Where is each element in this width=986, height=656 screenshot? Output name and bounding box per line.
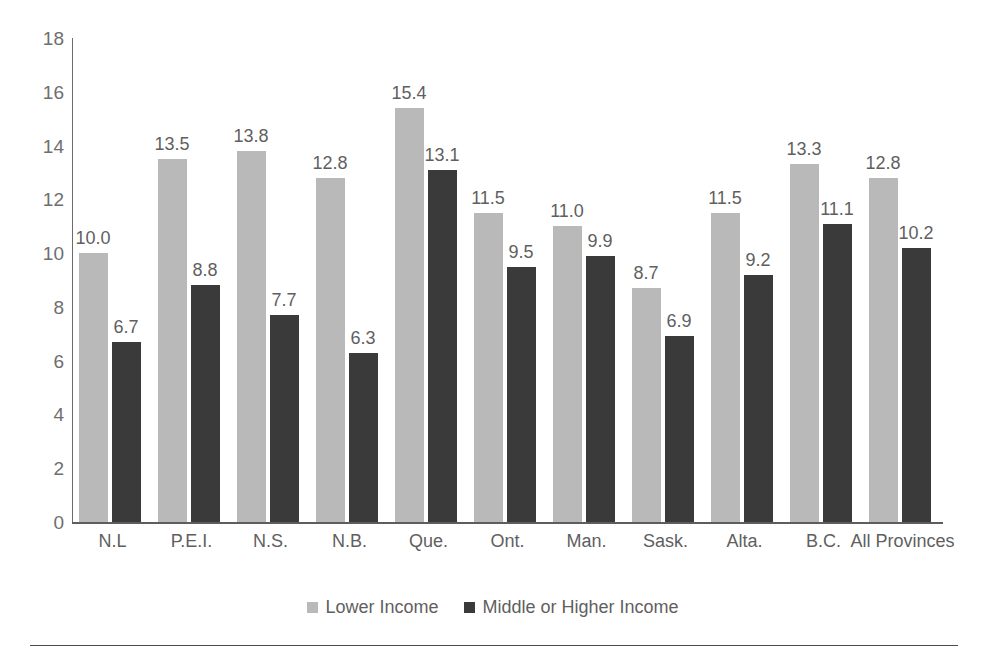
bar-group: 8.76.9 bbox=[626, 38, 705, 522]
bar-lower-income[interactable] bbox=[79, 253, 108, 522]
bottom-divider-rule bbox=[30, 645, 958, 646]
y-axis-tick-label: 12 bbox=[18, 190, 64, 209]
bar-value-label: 9.2 bbox=[735, 251, 781, 269]
bar-group: 13.311.1 bbox=[784, 38, 863, 522]
bar-middle-higher-income[interactable] bbox=[112, 342, 141, 522]
bar-group: 15.413.1 bbox=[389, 38, 468, 522]
legend-item[interactable]: Middle or Higher Income bbox=[464, 598, 678, 616]
bar-value-label: 7.7 bbox=[261, 291, 307, 309]
bar-lower-income[interactable] bbox=[237, 151, 266, 522]
bar-group: 12.86.3 bbox=[310, 38, 389, 522]
bar-chart-figure: 181614121086420 10.06.713.58.813.87.712.… bbox=[0, 0, 986, 656]
y-axis-tick-label: 10 bbox=[18, 244, 64, 263]
x-axis-category-label: All Provinces bbox=[848, 530, 958, 552]
legend-swatch-icon bbox=[307, 602, 318, 613]
bar-group: 11.59.5 bbox=[468, 38, 547, 522]
bar-middle-higher-income[interactable] bbox=[191, 285, 220, 522]
bar-value-label: 13.3 bbox=[781, 140, 827, 158]
bar-group: 11.59.2 bbox=[705, 38, 784, 522]
bar-value-label: 15.4 bbox=[386, 84, 432, 102]
bar-middle-higher-income[interactable] bbox=[586, 256, 615, 522]
bar-value-label: 11.1 bbox=[814, 200, 860, 218]
bar-middle-higher-income[interactable] bbox=[744, 275, 773, 522]
bar-group: 12.810.2 bbox=[863, 38, 942, 522]
bar-value-label: 9.9 bbox=[577, 232, 623, 250]
y-axis-tick-label: 2 bbox=[18, 459, 64, 478]
bar-value-label: 6.7 bbox=[103, 318, 149, 336]
chart-legend: Lower IncomeMiddle or Higher Income bbox=[0, 598, 986, 616]
bar-middle-higher-income[interactable] bbox=[902, 248, 931, 522]
bar-lower-income[interactable] bbox=[316, 178, 345, 522]
bar-value-label: 10.0 bbox=[70, 229, 116, 247]
bar-group: 10.06.7 bbox=[73, 38, 152, 522]
bar-value-label: 10.2 bbox=[893, 224, 939, 242]
bar-value-label: 6.9 bbox=[656, 312, 702, 330]
y-axis-tick-label: 14 bbox=[18, 137, 64, 156]
y-axis-tick-labels: 181614121086420 bbox=[14, 38, 64, 522]
bar-middle-higher-income[interactable] bbox=[270, 315, 299, 522]
bar-value-label: 12.8 bbox=[307, 154, 353, 172]
bar-value-label: 11.0 bbox=[544, 202, 590, 220]
bar-middle-higher-income[interactable] bbox=[823, 224, 852, 522]
bar-value-label: 12.8 bbox=[860, 154, 906, 172]
bar-group: 13.58.8 bbox=[152, 38, 231, 522]
bar-lower-income[interactable] bbox=[790, 164, 819, 522]
bar-value-label: 13.5 bbox=[149, 135, 195, 153]
bar-value-label: 9.5 bbox=[498, 243, 544, 261]
legend-item[interactable]: Lower Income bbox=[307, 598, 438, 616]
bar-value-label: 13.1 bbox=[419, 146, 465, 164]
bar-lower-income[interactable] bbox=[158, 159, 187, 522]
y-axis-tick-label: 8 bbox=[18, 298, 64, 317]
bar-middle-higher-income[interactable] bbox=[507, 267, 536, 522]
legend-label: Middle or Higher Income bbox=[482, 598, 678, 616]
bar-value-label: 8.8 bbox=[182, 261, 228, 279]
y-axis-tick-label: 4 bbox=[18, 405, 64, 424]
y-axis-tick-label: 16 bbox=[18, 83, 64, 102]
bar-middle-higher-income[interactable] bbox=[428, 170, 457, 522]
legend-label: Lower Income bbox=[325, 598, 438, 616]
bar-group: 13.87.7 bbox=[231, 38, 310, 522]
plot-area: 10.06.713.58.813.87.712.86.315.413.111.5… bbox=[73, 38, 942, 522]
bar-middle-higher-income[interactable] bbox=[349, 353, 378, 522]
bar-value-label: 11.5 bbox=[702, 189, 748, 207]
bar-middle-higher-income[interactable] bbox=[665, 336, 694, 522]
y-axis-tick-label: 18 bbox=[18, 29, 64, 48]
bar-value-label: 8.7 bbox=[623, 264, 669, 282]
bar-lower-income[interactable] bbox=[395, 108, 424, 522]
bar-lower-income[interactable] bbox=[553, 226, 582, 522]
x-axis-baseline bbox=[72, 522, 943, 524]
bar-group: 11.09.9 bbox=[547, 38, 626, 522]
y-axis-tick-label: 6 bbox=[18, 352, 64, 371]
bar-value-label: 6.3 bbox=[340, 329, 386, 347]
bar-value-label: 11.5 bbox=[465, 189, 511, 207]
legend-swatch-icon bbox=[464, 602, 475, 613]
bar-value-label: 13.8 bbox=[228, 127, 274, 145]
